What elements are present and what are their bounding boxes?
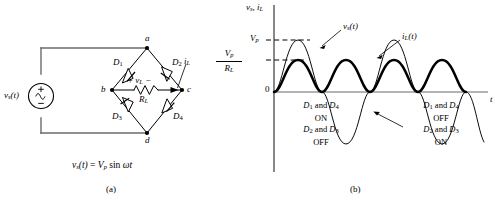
load-current-label: iL xyxy=(184,57,190,67)
diode-state-left-line1: D1 and D4 xyxy=(276,100,366,113)
panel-a-caption: (a) xyxy=(106,184,116,194)
diode-D4-label: D4 xyxy=(173,112,183,122)
node-b-dot xyxy=(110,88,114,92)
node-c-label: c xyxy=(187,85,191,94)
panel-a-circuit: vs(t) a b c d D1 D2 D3 D4 + vL − RL iL v… xyxy=(0,0,240,203)
load-voltage-label: + vL − xyxy=(127,76,151,86)
il-curve xyxy=(274,60,466,92)
node-d-label: d xyxy=(145,136,150,145)
diode-state-right-line3: D2 and D3 xyxy=(396,124,486,137)
panel-b-waveform-plot: vs, iL t 0 Vp Vp RL vs(t) iL(t) D1 and D… xyxy=(240,0,498,203)
origin-label: 0 xyxy=(265,85,270,94)
diode-state-right-line2: OFF xyxy=(396,113,486,125)
diode-state-left-line4: OFF xyxy=(276,137,366,149)
vs-label-leader xyxy=(320,30,342,49)
vp-tick-label: Vp xyxy=(250,34,259,44)
node-a-dot xyxy=(145,46,149,50)
diode-state-left-line3: D2 and D3 xyxy=(276,124,366,137)
source-label: vs(t) xyxy=(4,91,19,101)
level-guides xyxy=(266,40,310,60)
diode-state-left-line2: ON xyxy=(276,113,366,125)
load-resistor-label: RL xyxy=(139,95,148,105)
y-axis-label: vs, iL xyxy=(246,3,263,13)
fraction-bar xyxy=(216,61,242,62)
node-c-dot xyxy=(180,88,184,92)
panel-b-caption: (b) xyxy=(350,184,361,194)
resistor-zigzag-icon xyxy=(134,86,158,95)
x-axis-label: t xyxy=(490,95,493,104)
diode-D3-label: D3 xyxy=(112,112,122,122)
fraction-denominator: RL xyxy=(216,63,242,75)
node-a-label: a xyxy=(145,34,150,43)
diode-D2-symbol xyxy=(161,67,173,81)
vp-over-rl-tick-label: Vp RL xyxy=(216,48,242,76)
node-b-label: b xyxy=(101,85,106,94)
vs-curve-label: vs(t) xyxy=(343,22,358,32)
il-curve-label: iL(t) xyxy=(402,32,417,42)
source-equation: vs(t) = Vp sin ωt xyxy=(72,160,132,170)
figure-root: vs(t) a b c d D1 D2 D3 D4 + vL − RL iL v… xyxy=(0,0,498,203)
diode-state-right: D1 and D4 OFF D2 and D3 ON xyxy=(396,100,486,149)
diode-state-right-line1: D1 and D4 xyxy=(396,100,486,113)
il-label-leader xyxy=(377,40,401,59)
diode-D2-label: D2 xyxy=(172,58,182,68)
diode-D1-label: D1 xyxy=(113,58,123,68)
circuit-schematic xyxy=(0,0,240,203)
diode-D3-symbol xyxy=(121,97,134,112)
diode-state-right-line4: ON xyxy=(396,137,486,149)
diode-state-left: D1 and D4 ON D2 and D3 OFF xyxy=(276,100,366,149)
fraction-numerator: Vp xyxy=(216,48,242,60)
